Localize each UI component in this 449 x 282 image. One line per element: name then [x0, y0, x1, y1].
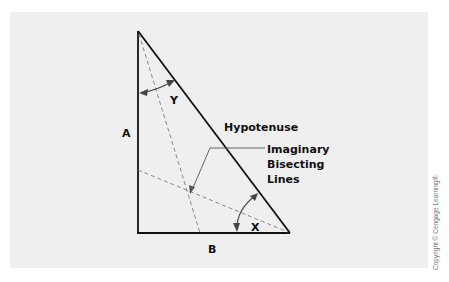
arrowhead-icon	[233, 223, 240, 232]
side-a-label: A	[122, 127, 131, 140]
arrowhead-icon	[139, 89, 148, 96]
side-b-label: B	[208, 243, 216, 256]
leader-line	[192, 148, 265, 190]
angle-x-label: X	[251, 221, 260, 234]
copyright-notice: Copyright © Cengage Learning®.	[432, 174, 439, 270]
arrowhead-icon	[166, 80, 175, 87]
angle-y-label: Y	[169, 94, 179, 107]
right-triangle-diagram: A B Hypotenuse Y X Imaginary Bisecting L…	[0, 0, 449, 282]
bisecting-label-line1: Imaginary	[267, 143, 329, 156]
bisecting-label-line3: Lines	[267, 173, 300, 186]
hypotenuse-label: Hypotenuse	[224, 121, 298, 134]
bisecting-label-line2: Bisecting	[267, 158, 324, 171]
bisector-y-line	[139, 34, 200, 233]
arrowhead-icon	[250, 193, 258, 201]
